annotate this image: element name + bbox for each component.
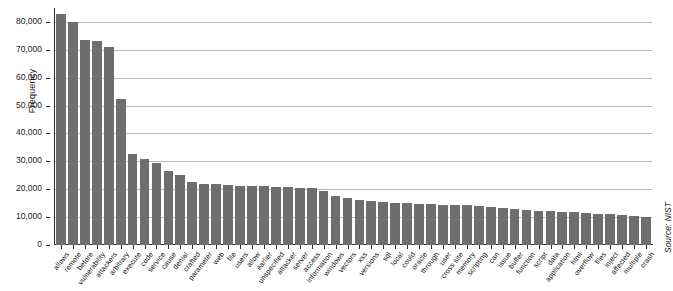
- x-tick-mark: [61, 245, 62, 249]
- bar: [211, 184, 221, 245]
- bar: [223, 185, 233, 245]
- bar: [474, 206, 484, 245]
- bar-slot: [234, 8, 246, 245]
- bar-slot: [521, 8, 533, 245]
- x-tick-mark: [156, 245, 157, 249]
- bar: [259, 186, 269, 245]
- x-tick-mark: [503, 245, 504, 249]
- y-tick-mark: [46, 106, 50, 107]
- x-tick-mark: [145, 245, 146, 249]
- bar-slot: [485, 8, 497, 245]
- y-tick-label: 0: [37, 239, 42, 249]
- y-tick-label: 20,000: [16, 183, 42, 193]
- bar-slot: [151, 8, 163, 245]
- bar: [402, 203, 412, 245]
- bar: [307, 188, 317, 245]
- bar: [199, 184, 209, 245]
- bar: [331, 196, 341, 245]
- y-tick-mark: [46, 245, 50, 246]
- x-tick-mark: [288, 245, 289, 249]
- bar-slot: [425, 8, 437, 245]
- bar: [116, 99, 126, 245]
- x-tick-mark: [574, 245, 575, 249]
- bar-slot: [556, 8, 568, 245]
- x-tick-mark: [240, 245, 241, 249]
- bar: [462, 205, 472, 245]
- bar: [414, 204, 424, 245]
- x-tick-mark: [97, 245, 98, 249]
- bar-slot: [115, 8, 127, 245]
- y-tick-mark: [46, 217, 50, 218]
- bar-slot: [330, 8, 342, 245]
- x-tick-mark: [646, 245, 647, 249]
- plot-inner: 010,00020,00030,00040,00050,00060,00070,…: [55, 8, 652, 245]
- bar: [557, 212, 567, 245]
- bar: [522, 210, 532, 245]
- bar-slot: [342, 8, 354, 245]
- bar: [510, 209, 520, 245]
- bar-slot: [413, 8, 425, 245]
- bar: [271, 187, 281, 245]
- bar-slot: [127, 8, 139, 245]
- x-tick-mark: [395, 245, 396, 249]
- y-tick-label: 10,000: [16, 211, 42, 221]
- bar: [617, 215, 627, 245]
- bar-slot: [616, 8, 628, 245]
- x-tick-mark: [479, 245, 480, 249]
- bar-slot: [353, 8, 365, 245]
- bar-slot: [377, 8, 389, 245]
- bar: [187, 182, 197, 245]
- bar-slot: [174, 8, 186, 245]
- bar-slot: [640, 8, 652, 245]
- bar: [283, 187, 293, 245]
- bar-slot: [401, 8, 413, 245]
- bar: [68, 22, 78, 245]
- x-tick-mark: [359, 245, 360, 249]
- bar: [546, 211, 556, 245]
- source-note: Source: NIST: [663, 202, 673, 253]
- bar: [390, 203, 400, 245]
- x-tick-mark: [252, 245, 253, 249]
- bar-slot: [437, 8, 449, 245]
- bar-slot: [497, 8, 509, 245]
- x-tick-mark: [419, 245, 420, 249]
- x-tick-mark: [336, 245, 337, 249]
- x-tick-mark: [491, 245, 492, 249]
- x-tick-mark: [371, 245, 372, 249]
- x-tick-mark: [598, 245, 599, 249]
- bar: [641, 217, 651, 245]
- x-tick-mark: [527, 245, 528, 249]
- x-tick-mark: [586, 245, 587, 249]
- plot-area: 010,00020,00030,00040,00050,00060,00070,…: [55, 8, 652, 245]
- bar-slot: [509, 8, 521, 245]
- bar: [486, 207, 496, 245]
- x-tick-mark: [168, 245, 169, 249]
- bar-slot: [55, 8, 67, 245]
- x-tick-mark: [121, 245, 122, 249]
- bar-slot: [628, 8, 640, 245]
- bar-slot: [365, 8, 377, 245]
- y-tick-label: 40,000: [16, 127, 42, 137]
- bar: [247, 186, 257, 245]
- x-tick-mark: [455, 245, 456, 249]
- bar: [319, 191, 329, 245]
- bar: [498, 208, 508, 245]
- bar: [569, 212, 579, 245]
- bar-slot: [91, 8, 103, 245]
- x-tick-mark: [312, 245, 313, 249]
- bar-slot: [318, 8, 330, 245]
- bar-slot: [103, 8, 115, 245]
- y-tick-label: 80,000: [16, 16, 42, 26]
- y-tick-mark: [46, 22, 50, 23]
- bar: [104, 47, 114, 245]
- bar-slot: [258, 8, 270, 245]
- x-tick-mark: [610, 245, 611, 249]
- bar-slot: [186, 8, 198, 245]
- bar-slot: [222, 8, 234, 245]
- x-tick-mark: [73, 245, 74, 249]
- bar: [438, 205, 448, 245]
- y-tick-mark: [46, 161, 50, 162]
- bar-slot: [306, 8, 318, 245]
- y-tick-label: 70,000: [16, 44, 42, 54]
- bar-slot: [473, 8, 485, 245]
